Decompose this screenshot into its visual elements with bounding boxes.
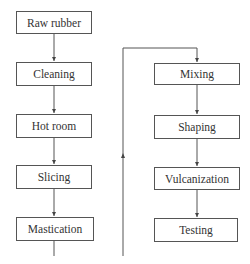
arrowhead-up-icon bbox=[121, 153, 125, 158]
arrowhead-down-icon bbox=[195, 110, 199, 114]
node-raw-rubber: Raw rubber bbox=[16, 11, 92, 34]
arrowhead-down-icon bbox=[195, 58, 199, 62]
node-label: Shaping bbox=[178, 121, 216, 133]
node-label: Raw rubber bbox=[27, 17, 81, 29]
node-mastication: Mastication bbox=[16, 217, 94, 241]
arrowhead-down-icon bbox=[195, 213, 199, 217]
arrowhead-down-icon bbox=[195, 162, 199, 166]
node-testing: Testing bbox=[154, 218, 238, 242]
node-slicing: Slicing bbox=[16, 165, 92, 189]
node-label: Mastication bbox=[28, 223, 82, 235]
arrowhead-down-icon bbox=[52, 57, 56, 61]
node-label: Cleaning bbox=[33, 68, 75, 80]
node-hot-room: Hot room bbox=[16, 114, 92, 138]
node-cleaning: Cleaning bbox=[16, 62, 92, 86]
node-label: Vulcanization bbox=[165, 173, 229, 185]
node-label: Hot room bbox=[32, 120, 76, 132]
node-label: Testing bbox=[179, 224, 213, 236]
arrowhead-down-icon bbox=[52, 212, 56, 216]
arrowhead-down-icon bbox=[52, 109, 56, 113]
node-vulcanization: Vulcanization bbox=[154, 167, 240, 190]
node-shaping: Shaping bbox=[154, 115, 240, 139]
arrowhead-down-icon bbox=[52, 160, 56, 164]
node-label: Mixing bbox=[180, 68, 214, 80]
node-label: Slicing bbox=[38, 171, 71, 183]
flowchart-canvas: Raw rubber Cleaning Hot room Slicing Mas… bbox=[0, 0, 250, 264]
node-mixing: Mixing bbox=[154, 63, 240, 85]
